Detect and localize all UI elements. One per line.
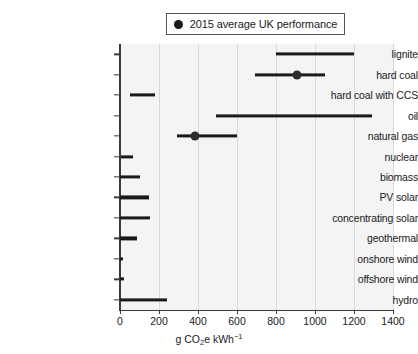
x-axis-tick-label: 800 xyxy=(267,315,285,327)
x-axis-tick-label: 1400 xyxy=(381,315,404,327)
y-axis-tick xyxy=(114,115,119,116)
y-axis-tick xyxy=(114,156,119,157)
average-performance-marker xyxy=(293,70,302,79)
y-axis-tick xyxy=(114,217,119,218)
range-bar xyxy=(121,155,133,158)
y-axis-label: hard coal with CCS xyxy=(302,89,418,101)
range-bar xyxy=(177,134,237,137)
emissions-range-chart: 2015 average UK performance lignitehard … xyxy=(0,0,418,354)
x-axis-title-superscript: −1 xyxy=(234,332,243,341)
average-performance-marker xyxy=(191,132,200,141)
range-bar xyxy=(255,73,325,76)
x-axis-tick-label: 400 xyxy=(189,315,207,327)
range-bar xyxy=(120,216,150,219)
y-axis-tick xyxy=(114,54,119,55)
y-axis-label: nuclear xyxy=(302,151,418,163)
y-axis-label: PV solar xyxy=(302,191,418,203)
y-axis-label: onshore wind xyxy=(302,253,418,265)
y-axis-tick xyxy=(114,279,119,280)
x-axis-title-mid: e kWh xyxy=(204,333,234,345)
range-bar xyxy=(120,257,123,260)
gridline xyxy=(198,44,199,310)
y-axis-tick xyxy=(114,197,119,198)
y-axis-tick xyxy=(114,135,119,136)
x-axis-title-main: g CO xyxy=(175,333,200,345)
x-axis-tick xyxy=(276,310,277,314)
y-axis-tick xyxy=(114,176,119,177)
range-bar xyxy=(120,237,137,240)
range-bar xyxy=(120,298,167,301)
y-axis-label: geothermal xyxy=(302,232,418,244)
x-axis-tick xyxy=(159,310,160,314)
x-axis-tick-label: 1200 xyxy=(342,315,365,327)
circle-marker-icon xyxy=(174,20,183,29)
y-axis-label: biomass xyxy=(302,171,418,183)
range-bar xyxy=(120,175,140,178)
y-axis-label: offshore wind xyxy=(302,273,418,285)
legend-label: 2015 average UK performance xyxy=(190,18,338,30)
gridline xyxy=(159,44,160,310)
x-axis-title: g CO2e kWh−1 xyxy=(0,332,418,347)
x-axis-tick xyxy=(237,310,238,314)
x-axis-tick xyxy=(198,310,199,314)
y-axis-tick xyxy=(114,238,119,239)
chart-legend: 2015 average UK performance xyxy=(166,13,345,35)
range-bar xyxy=(120,196,149,199)
range-bar xyxy=(120,278,124,281)
range-bar xyxy=(276,53,354,56)
y-axis-label: hydro xyxy=(302,294,418,306)
y-axis-tick xyxy=(114,299,119,300)
gridline xyxy=(276,44,277,310)
y-axis-tick xyxy=(114,94,119,95)
range-bar xyxy=(216,114,372,117)
gridline xyxy=(237,44,238,310)
range-bar xyxy=(130,94,155,97)
y-axis-label: natural gas xyxy=(302,130,418,142)
x-axis-tick-label: 0 xyxy=(117,315,123,327)
x-axis-tick xyxy=(354,310,355,314)
y-axis-label: concentrating solar xyxy=(302,212,418,224)
x-axis-tick-label: 600 xyxy=(228,315,246,327)
y-axis-tick xyxy=(114,74,119,75)
x-axis-tick-label: 1000 xyxy=(303,315,326,327)
x-axis-tick xyxy=(393,310,394,314)
x-axis-tick-label: 200 xyxy=(150,315,168,327)
y-axis-tick xyxy=(114,258,119,259)
x-axis-tick xyxy=(315,310,316,314)
x-axis-tick xyxy=(120,310,121,314)
